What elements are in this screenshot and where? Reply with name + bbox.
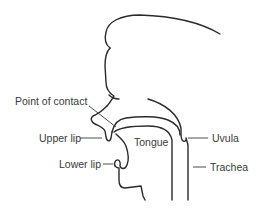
diagram-drawing <box>0 0 265 214</box>
skull-outline <box>105 15 220 48</box>
vocal-tract-diagram: Point of contact Upper lip Lower lip Ton… <box>0 0 265 214</box>
label-point-of-contact: Point of contact <box>15 96 87 107</box>
label-trachea: Trachea <box>210 162 248 173</box>
label-lower-lip: Lower lip <box>59 159 101 170</box>
label-tongue: Tongue <box>134 137 168 148</box>
pharynx-wall <box>186 138 188 200</box>
nose-to-upper-lip <box>91 106 112 141</box>
label-uvula: Uvula <box>212 133 239 144</box>
label-upper-lip: Upper lip <box>39 133 81 144</box>
